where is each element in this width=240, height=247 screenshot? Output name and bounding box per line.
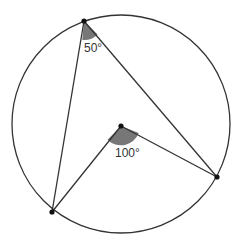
chord-AC — [84, 21, 217, 177]
inscribed-angle-marker — [82, 21, 97, 40]
central-angle-label: 100° — [115, 146, 140, 160]
central-angle-marker — [108, 126, 139, 145]
circle-theorem-diagram: 50° 100° — [0, 0, 240, 247]
inscribed-angle-label: 50° — [84, 41, 102, 55]
chord-AB — [52, 21, 84, 212]
point-C — [214, 174, 219, 179]
point-O-centre — [118, 123, 123, 128]
radius-OB — [52, 126, 121, 212]
point-B — [49, 209, 54, 214]
point-A — [81, 18, 86, 23]
